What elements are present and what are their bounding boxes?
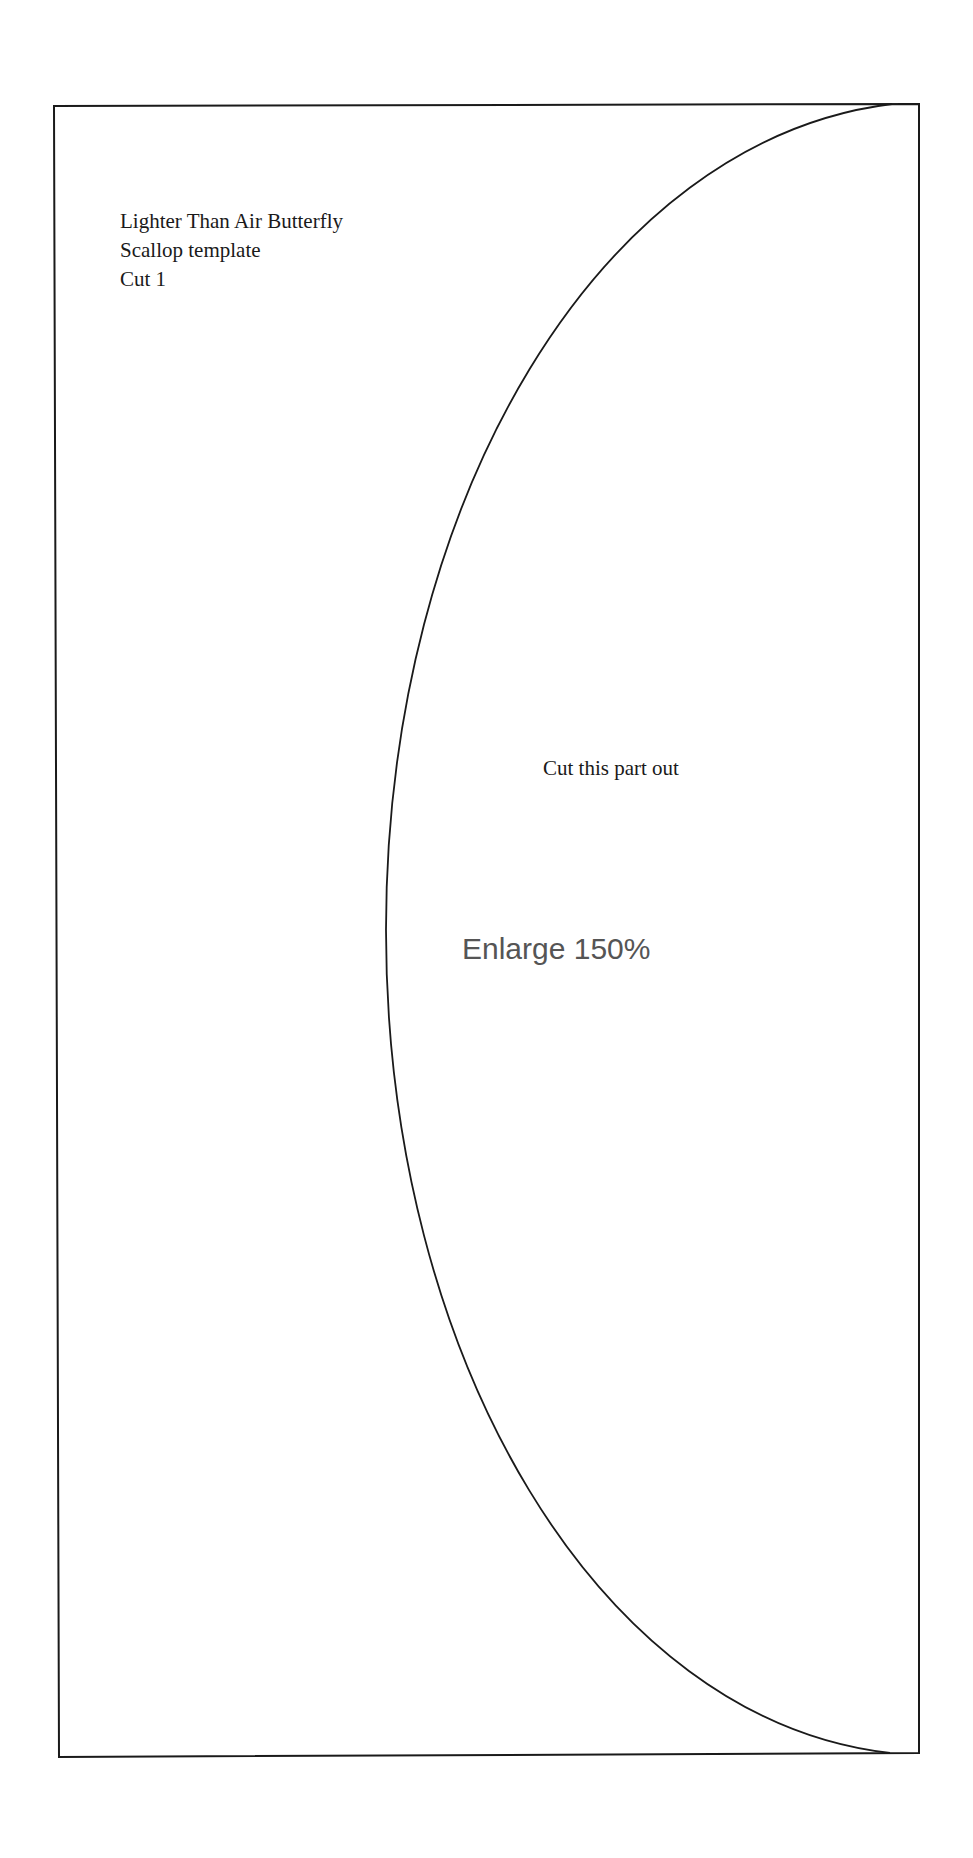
scallop-curve <box>386 104 892 1753</box>
title-block: Lighter Than Air Butterfly Scallop templ… <box>120 207 343 294</box>
template-page: Lighter Than Air Butterfly Scallop templ… <box>0 0 973 1858</box>
cut-instruction: Cut this part out <box>543 756 679 781</box>
title-line-cut-count: Cut 1 <box>120 265 343 294</box>
title-line-template: Scallop template <box>120 236 343 265</box>
title-line-project: Lighter Than Air Butterfly <box>120 207 343 236</box>
enlarge-instruction: Enlarge 150% <box>462 932 650 966</box>
border-rectangle <box>54 104 919 1757</box>
